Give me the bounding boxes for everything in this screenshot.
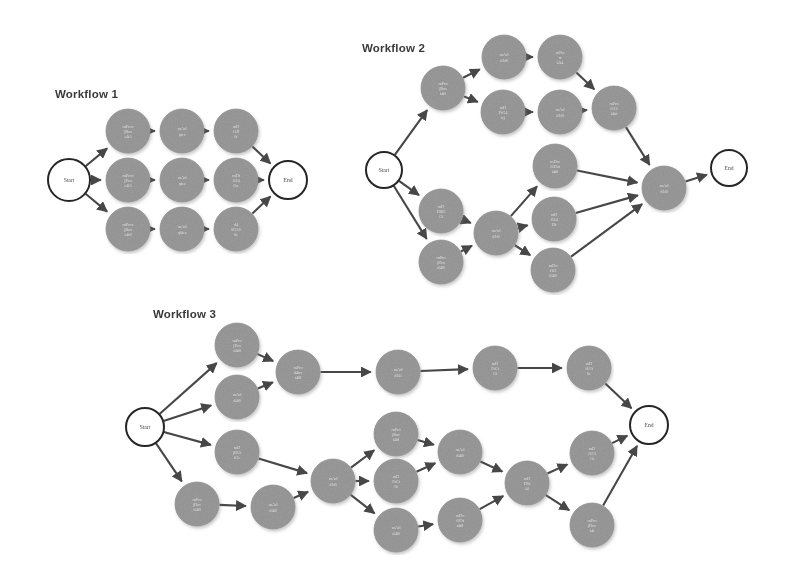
task-node[interactable]: mProjDosd4t8 xyxy=(419,240,463,284)
task-node-label-line: mPro xyxy=(192,497,202,502)
task-node[interactable]: mDof1t3d4t8 xyxy=(531,248,575,292)
task-node-label-line: FrCt xyxy=(392,479,401,484)
task-node[interactable]: mAdd1t6 xyxy=(311,459,355,503)
task-node-label-line: d4t8 xyxy=(437,265,445,270)
task-node-label-line: D8J3 xyxy=(437,209,447,214)
task-node[interactable]: mAdd1t5 xyxy=(376,350,420,394)
task-node-label-line: qtes xyxy=(179,132,186,137)
workflow-edge xyxy=(395,110,427,155)
task-node-label-line: jDos xyxy=(436,260,445,265)
task-node-label-line: f2Ot xyxy=(456,518,465,523)
task-node[interactable]: mNostt2t4 xyxy=(538,35,582,79)
task-node[interactable]: mProcjBosc4t8 xyxy=(106,207,150,251)
task-node-label-line: mD xyxy=(234,445,241,450)
task-node[interactable]: mAdd1t8 xyxy=(642,166,686,210)
task-node-label-line: jBoc xyxy=(391,432,400,437)
workflow-edge xyxy=(463,69,480,77)
task-node[interactable]: mAdqtes xyxy=(160,109,204,153)
task-node[interactable]: mAdq0tes xyxy=(160,207,204,251)
workflow-edge xyxy=(515,245,530,255)
task-node[interactable]: mProjBost4t5 xyxy=(421,66,465,110)
task-node-label-line: FrG4 xyxy=(499,110,509,115)
task-node[interactable]: mProjBoct4t8 xyxy=(374,412,418,456)
task-node-label-line: t4t8 xyxy=(295,375,302,380)
task-node[interactable]: mDf1J4Dt xyxy=(532,197,576,241)
task-node[interactable]: mDD6tt4 xyxy=(505,461,549,505)
task-node[interactable]: mDf1GtGt xyxy=(570,431,614,475)
task-node[interactable]: mProf1Ctt4trt xyxy=(592,86,636,130)
terminal-node-label: Start xyxy=(140,424,151,430)
task-node[interactable]: mDf1Gt6e xyxy=(567,346,611,390)
task-node-label-line: f2Dot xyxy=(550,164,561,169)
task-node[interactable]: d48G3S6e xyxy=(214,207,258,251)
workflow-title-3: Workflow 3 xyxy=(153,308,216,320)
task-node[interactable]: mDFrCtGt xyxy=(473,346,517,390)
start-node[interactable]: Start xyxy=(366,152,402,188)
task-node-label-line: 8G3S xyxy=(231,227,241,232)
terminal-node-label: Start xyxy=(64,177,75,183)
task-node[interactable]: mDof2Ott4t8 xyxy=(438,498,482,542)
workflow-edge xyxy=(686,175,707,182)
task-node[interactable]: mDFrG4trj xyxy=(481,90,525,134)
workflow-edge xyxy=(86,194,108,212)
task-node[interactable]: mProjPend4t8 xyxy=(215,323,259,367)
task-node[interactable]: mProjDoct4t xyxy=(570,503,614,547)
task-node[interactable]: mAdd1t6 xyxy=(474,211,518,255)
workflow-edge xyxy=(612,436,627,443)
terminal-node-label: End xyxy=(283,177,292,183)
workflow-edge xyxy=(351,450,374,467)
end-node[interactable]: End xyxy=(711,150,747,186)
task-node[interactable]: mProcjBosc4t5 xyxy=(106,109,150,153)
task-node-label-line: t4t8 xyxy=(457,523,464,528)
task-node[interactable]: mAdqtes xyxy=(160,158,204,202)
workflow-edge xyxy=(420,369,467,371)
task-node[interactable]: mDtf1J46re xyxy=(214,158,258,202)
task-node[interactable]: mAdd4t8 xyxy=(215,375,259,419)
start-node[interactable]: Start xyxy=(126,408,164,446)
task-node-label-line: mD xyxy=(393,474,400,479)
task-node-label-line: mD xyxy=(586,361,593,366)
task-node-label-line: t4t5 xyxy=(440,91,447,96)
workflow-title-2: Workflow 2 xyxy=(362,42,425,54)
task-node[interactable]: mAdd4t8 xyxy=(251,485,295,529)
task-node-label-line: mAd xyxy=(329,476,338,481)
task-node-label-line: jBos xyxy=(438,86,447,91)
task-node[interactable]: mAdd1t8 xyxy=(482,35,526,79)
task-node-label-line: mD xyxy=(524,476,531,481)
task-node[interactable]: mAdd4t8 xyxy=(438,430,482,474)
start-node[interactable]: Start xyxy=(48,159,90,201)
task-node[interactable]: mAdd1t8 xyxy=(538,90,582,134)
end-node[interactable]: End xyxy=(269,161,307,199)
task-node[interactable]: mDjBGttGe xyxy=(215,430,259,474)
task-node-label-line: mAd xyxy=(394,367,403,372)
workflow-graph-canvas: mProcjBosc4t5mAdqtesmDf1JI6rmProcjPenc4t… xyxy=(0,0,794,568)
task-node-label-line: d1t8 xyxy=(556,113,564,118)
task-node[interactable]: mProcjPenc4t5 xyxy=(106,158,150,202)
task-node[interactable]: mDrof2Dott4t6 xyxy=(533,144,577,188)
workflow-edge xyxy=(461,246,472,252)
task-node-label-line: mAd xyxy=(269,502,278,507)
task-node-label-line: f1Ct xyxy=(610,106,618,111)
task-node-label-line: mAd xyxy=(178,175,187,180)
task-node-label-line: mPro xyxy=(609,101,619,106)
task-node[interactable]: mDf1JI6r xyxy=(214,109,258,153)
task-node[interactable]: mDFrCt6t xyxy=(374,459,418,503)
task-node-label-line: mProc xyxy=(123,173,134,178)
task-node-label-line: f1t3 xyxy=(550,268,558,273)
workflow-edge xyxy=(416,463,435,471)
workflow-edge xyxy=(219,505,245,506)
task-node-label-line: f1J4 xyxy=(232,178,240,183)
task-node-label-line: t4t8 xyxy=(393,437,400,442)
task-node-label-line: tGe xyxy=(234,455,240,460)
task-node[interactable]: mProjDocd4t8 xyxy=(175,482,219,526)
task-node-label-line: mProc xyxy=(123,222,134,227)
end-node[interactable]: End xyxy=(630,406,668,444)
task-node[interactable]: mProd4trct4t8 xyxy=(276,350,320,394)
task-node[interactable]: mAdd4t8 xyxy=(374,508,418,552)
task-node-label-line: mNo xyxy=(556,50,565,55)
task-node-label-line: FrCt xyxy=(491,366,500,371)
task-node[interactable]: mDD8J3Gt xyxy=(419,189,463,233)
task-node-label-line: c4t5 xyxy=(124,183,132,188)
task-node-label-line: mD xyxy=(233,124,240,129)
workflow-edge xyxy=(547,464,567,473)
